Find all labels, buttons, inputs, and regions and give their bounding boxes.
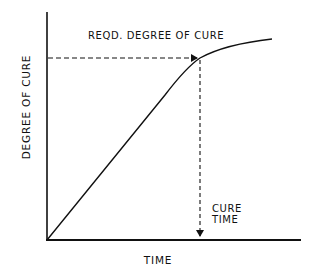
- cure-time-label-line1: CURE: [212, 203, 242, 214]
- x-axis-label: TIME: [143, 254, 172, 266]
- cure-time-label-line2: TIME: [211, 214, 238, 225]
- required-cure-label: REQD. DEGREE OF CURE: [88, 30, 224, 41]
- cure-diagram: REQD. DEGREE OF CURE CURE TIME TIME DEGR…: [0, 0, 313, 276]
- y-axis-label: DEGREE OF CURE: [20, 55, 32, 160]
